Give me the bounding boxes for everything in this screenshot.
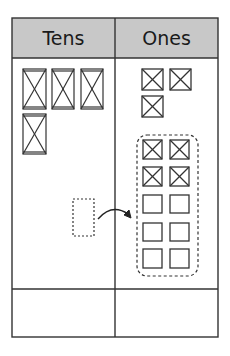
tens-rods — [23, 69, 103, 154]
ten-rod-icon — [81, 69, 103, 109]
one-cube-empty-icon — [143, 223, 162, 241]
one-cube-icon — [142, 69, 163, 90]
one-cube-empty-icon — [170, 223, 189, 241]
one-cube-crossed-icon — [143, 140, 162, 159]
one-cube-crossed-icon — [143, 167, 162, 186]
one-cube-icon — [142, 96, 163, 117]
answer-cell-ones[interactable] — [116, 290, 217, 336]
one-cube-empty-icon — [170, 249, 189, 268]
column-header-ones: Ones — [115, 18, 218, 58]
ten-rod-icon — [23, 69, 46, 109]
one-cube-empty-icon — [143, 249, 162, 268]
one-cube-icon — [170, 69, 191, 90]
regrouped-ones-cubes — [143, 140, 189, 268]
ten-rod-icon — [52, 69, 74, 109]
answer-cell-tens[interactable] — [13, 290, 114, 336]
one-cube-crossed-icon — [170, 167, 189, 186]
regrouped-ten-outline — [73, 199, 94, 236]
one-cube-crossed-icon — [170, 140, 189, 159]
one-cube-empty-icon — [143, 195, 162, 213]
ones-cubes — [142, 69, 191, 117]
table-grid — [12, 18, 218, 337]
one-cube-empty-icon — [170, 195, 189, 213]
ten-rod-icon — [23, 114, 46, 154]
column-header-tens: Tens — [12, 18, 115, 58]
